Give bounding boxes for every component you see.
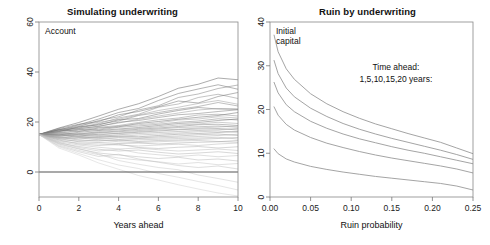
- y-tick-label: 40: [25, 67, 35, 77]
- y-tick-label: 40: [256, 17, 266, 27]
- chart-panel-left: Simulating underwriting 02468100204060Ye…: [0, 0, 245, 245]
- inside-label: capital: [276, 36, 301, 46]
- series-5-years: [274, 107, 473, 173]
- figure-canvas: Simulating underwriting 02468100204060Ye…: [0, 0, 490, 245]
- y-tick-label: 60: [25, 17, 35, 27]
- x-axis-title: Years ahead: [113, 220, 163, 230]
- chart-panel-right: Ruin by underwriting 0.000.050.100.150.2…: [245, 0, 490, 245]
- x-tick-label: 8: [196, 203, 201, 213]
- series-20-years: [274, 35, 473, 154]
- x-tick-label: 4: [116, 203, 121, 213]
- panel-right-plot: 0.000.050.100.150.200.25010203040Ruin pr…: [245, 0, 490, 245]
- x-tick-label: 2: [76, 203, 81, 213]
- x-tick-label: 0.05: [302, 203, 319, 213]
- series-path-02: [39, 85, 238, 135]
- x-tick-label: 0.15: [384, 203, 401, 213]
- x-tick-label: 0.10: [343, 203, 360, 213]
- chart-annotation: Time ahead:: [372, 62, 419, 72]
- x-tick-label: 0.00: [262, 203, 279, 213]
- y-tick-label: 10: [256, 148, 266, 158]
- x-tick-label: 0: [37, 203, 42, 213]
- panel-left-plot: 02468100204060Years aheadAccount: [0, 0, 245, 245]
- x-axis-title: Ruin probability: [340, 220, 403, 230]
- y-tick-label: 30: [256, 61, 266, 71]
- x-tick-label: 10: [233, 203, 243, 213]
- series-path-40: [39, 135, 238, 197]
- x-tick-label: 0.25: [465, 203, 482, 213]
- inside-label: Account: [45, 26, 76, 36]
- chart-annotation: 1,5,10,15,20 years:: [359, 74, 432, 84]
- y-tick-label: 20: [25, 117, 35, 127]
- series-1-year: [274, 149, 473, 190]
- y-tick-label: 0: [25, 169, 35, 174]
- y-tick-label: 0: [256, 194, 266, 199]
- y-tick-label: 20: [256, 105, 266, 115]
- x-tick-label: 6: [156, 203, 161, 213]
- x-tick-label: 0.20: [424, 203, 441, 213]
- plot-frame: [270, 22, 473, 197]
- inside-label: Initial: [276, 26, 296, 36]
